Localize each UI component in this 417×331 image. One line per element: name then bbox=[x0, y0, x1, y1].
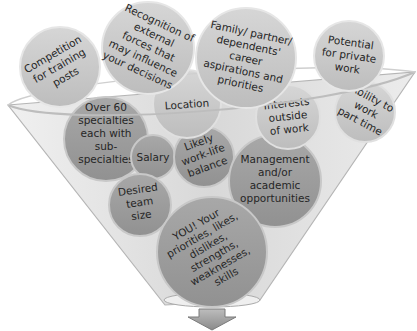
bubble-private-work: Potentialfor privatework bbox=[314, 21, 384, 91]
bubble-competition: Competitionfor trainingposts bbox=[20, 27, 100, 107]
funnel-diagram: Over 60specialtieseach withsub-specialti… bbox=[0, 0, 417, 331]
svg-text:Managementand/oracademicopport: Managementand/oracademicopportunities bbox=[240, 153, 310, 204]
bubble-salary: Salary bbox=[131, 135, 175, 179]
bubble-you: YOU! Yourpriorities, likes,dislikes,stre… bbox=[157, 197, 267, 307]
svg-text:Salary: Salary bbox=[137, 151, 170, 163]
svg-text:Over 60specialtieseach withsub: Over 60specialtieseach withsub-specialti… bbox=[78, 101, 134, 165]
bubble-team-size: Desiredteamsize bbox=[109, 174, 171, 236]
bubble-family: Family/ partner/dependents'careeraspirat… bbox=[196, 8, 296, 108]
down-arrow-icon bbox=[188, 309, 236, 330]
